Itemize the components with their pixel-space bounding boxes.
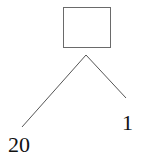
right-branch-edge (86, 55, 126, 98)
left-leaf-label: 20 (8, 132, 30, 157)
tree-diagram: 20 1 (0, 0, 144, 159)
root-node-box (64, 8, 111, 48)
left-branch-edge (22, 55, 86, 127)
right-leaf-label: 1 (122, 110, 133, 135)
